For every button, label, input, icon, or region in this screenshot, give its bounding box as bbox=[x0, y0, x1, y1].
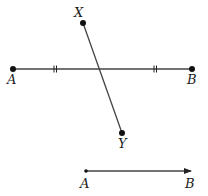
geometry-diagram: A B X Y A B bbox=[0, 0, 208, 196]
segment-xy-line bbox=[83, 23, 122, 133]
ray-label-a: A bbox=[79, 176, 89, 191]
label-y: Y bbox=[118, 136, 128, 151]
ray-point-a bbox=[84, 169, 88, 173]
ray-ab: A B bbox=[79, 169, 195, 191]
label-b: B bbox=[186, 72, 197, 87]
label-a: A bbox=[6, 72, 16, 87]
label-x: X bbox=[73, 5, 84, 20]
point-x bbox=[80, 20, 86, 26]
segment-xy: X Y bbox=[73, 5, 128, 151]
ray-label-b: B bbox=[184, 176, 195, 191]
